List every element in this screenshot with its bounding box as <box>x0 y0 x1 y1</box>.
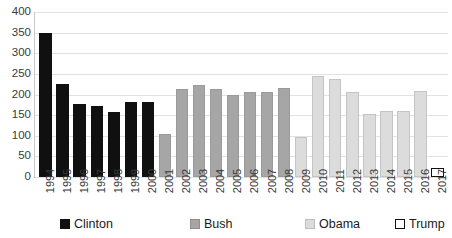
bar-1995[interactable] <box>56 84 68 177</box>
y-axis-tick-label: 250 <box>12 68 31 80</box>
x-axis-tick: 2007 <box>258 180 275 216</box>
x-axis-tick: 2014 <box>378 180 395 216</box>
y-axis-tick-label: 200 <box>12 89 31 101</box>
bar-slot <box>207 12 224 177</box>
x-axis-tick: 2004 <box>207 180 224 216</box>
x-axis-tick: 2017 <box>429 180 446 216</box>
x-axis-tick: 2003 <box>190 180 207 216</box>
x-axis-tick: 2009 <box>292 180 309 216</box>
bar-slot <box>327 12 344 177</box>
plot-area <box>34 12 448 178</box>
bar-2016[interactable] <box>414 91 426 177</box>
y-axis-tick-label: 0 <box>25 171 31 183</box>
legend-swatch-icon <box>305 219 315 229</box>
x-axis-tick: 2016 <box>412 180 429 216</box>
bar-slot <box>225 12 242 177</box>
bar-2000[interactable] <box>142 102 154 177</box>
bar-2015[interactable] <box>397 111 409 177</box>
legend-label: Bush <box>204 218 233 231</box>
legend-item-bush[interactable]: Bush <box>190 218 233 231</box>
x-axis-tick: 1995 <box>53 180 70 216</box>
x-axis-tick-label: 2017 <box>437 169 448 193</box>
bar-2008[interactable] <box>278 88 290 177</box>
x-axis-tick: 2010 <box>309 180 326 216</box>
x-axis: 1994199519961997199819992000200120022003… <box>34 180 448 216</box>
bar-slot <box>276 12 293 177</box>
bar-2011[interactable] <box>329 79 341 177</box>
bar-slot <box>310 12 327 177</box>
bar-2012[interactable] <box>346 92 358 177</box>
bar-slot <box>412 12 429 177</box>
legend-label: Clinton <box>74 218 113 231</box>
bar-2014[interactable] <box>380 111 392 177</box>
bar-2007[interactable] <box>261 92 273 177</box>
x-axis-tick: 2000 <box>138 180 155 216</box>
bar-slot <box>242 12 259 177</box>
x-axis-tick: 1996 <box>70 180 87 216</box>
bar-slot <box>156 12 173 177</box>
bar-2010[interactable] <box>312 76 324 177</box>
bar-slot <box>293 12 310 177</box>
bar-slot <box>173 12 190 177</box>
bar-slot <box>378 12 395 177</box>
bar-slot <box>105 12 122 177</box>
bar-slot <box>54 12 71 177</box>
bar-slot <box>429 12 446 177</box>
bar-1997[interactable] <box>91 106 103 177</box>
y-axis-tick-label: 150 <box>12 109 31 121</box>
legend-item-trump[interactable]: Trump <box>395 218 445 231</box>
bar-2002[interactable] <box>176 89 188 177</box>
legend-swatch-icon <box>190 219 200 229</box>
plot-wrapper: 400350300250200150100500 199419951996199… <box>0 0 452 180</box>
x-axis-tick: 1994 <box>36 180 53 216</box>
bar-slot <box>395 12 412 177</box>
bar-2004[interactable] <box>210 89 222 177</box>
y-axis-tick-label: 300 <box>12 48 31 60</box>
bar-slot <box>139 12 156 177</box>
bar-slot <box>122 12 139 177</box>
x-axis-tick: 2015 <box>395 180 412 216</box>
bar-1999[interactable] <box>125 102 137 177</box>
legend-label: Trump <box>409 218 445 231</box>
bar-slot <box>344 12 361 177</box>
x-axis-tick: 2012 <box>343 180 360 216</box>
y-axis: 400350300250200150100500 <box>0 0 34 180</box>
legend-swatch-icon <box>60 219 70 229</box>
bar-2006[interactable] <box>244 92 256 177</box>
x-axis-tick: 2008 <box>275 180 292 216</box>
bar-slot <box>71 12 88 177</box>
bar-1994[interactable] <box>39 33 51 177</box>
y-axis-tick-label: 350 <box>12 27 31 39</box>
bar-slot <box>259 12 276 177</box>
bar-slot <box>361 12 378 177</box>
bar-series-container <box>35 12 448 177</box>
bar-1998[interactable] <box>108 112 120 177</box>
x-axis-tick: 2005 <box>224 180 241 216</box>
bar-2013[interactable] <box>363 114 375 177</box>
y-axis-tick-label: 400 <box>12 6 31 18</box>
legend-label: Obama <box>319 218 360 231</box>
y-axis-tick-label: 50 <box>18 151 31 163</box>
legend-swatch-icon <box>395 219 405 229</box>
y-axis-tick-label: 100 <box>12 130 31 142</box>
x-axis-tick: 2001 <box>156 180 173 216</box>
x-axis-tick: 2006 <box>241 180 258 216</box>
legend-item-clinton[interactable]: Clinton <box>60 218 113 231</box>
chart-legend: ClintonBushObamaTrump <box>0 216 452 238</box>
x-axis-tick: 2011 <box>326 180 343 216</box>
bar-slot <box>190 12 207 177</box>
x-axis-tick: 2002 <box>173 180 190 216</box>
x-axis-tick: 1998 <box>104 180 121 216</box>
x-axis-tick: 1997 <box>87 180 104 216</box>
bar-1996[interactable] <box>73 104 85 177</box>
x-axis-tick: 1999 <box>121 180 138 216</box>
bar-slot <box>37 12 54 177</box>
legend-item-obama[interactable]: Obama <box>305 218 360 231</box>
bar-2005[interactable] <box>227 95 239 178</box>
bar-slot <box>88 12 105 177</box>
x-axis-tick: 2013 <box>360 180 377 216</box>
bar-chart: 400350300250200150100500 199419951996199… <box>0 0 452 238</box>
bar-2003[interactable] <box>193 85 205 177</box>
